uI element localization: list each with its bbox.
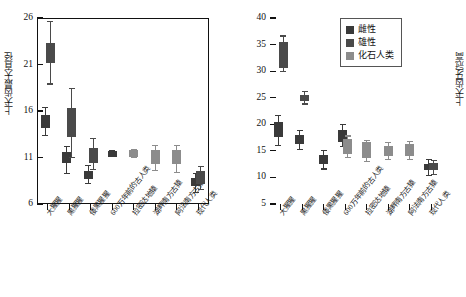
y-tick-mark xyxy=(270,17,276,18)
box-marker xyxy=(41,115,50,128)
whisker-cap-lower xyxy=(407,159,413,160)
box-marker xyxy=(151,150,160,164)
y-tick-mark xyxy=(37,17,43,18)
box-marker xyxy=(343,139,352,154)
y-tick-mark xyxy=(37,157,43,158)
y-tick-mark xyxy=(270,203,276,204)
legend-item[interactable]: 雄性 xyxy=(346,36,394,49)
x-tick-label: 大猩猩 xyxy=(278,195,297,216)
whisker-cap-lower xyxy=(90,169,96,170)
whisker-cap-lower xyxy=(64,173,70,174)
box-marker xyxy=(172,150,181,164)
whisker-cap-upper xyxy=(302,91,308,92)
whisker-cap-lower xyxy=(364,161,370,162)
whisker-cap-lower xyxy=(198,189,204,190)
whisker-cap-upper xyxy=(385,142,391,143)
y-tick-mark xyxy=(270,150,276,151)
box-marker xyxy=(67,108,76,137)
left-plot-area xyxy=(37,18,209,204)
whisker-cap-lower xyxy=(69,157,75,158)
whisker-cap-lower xyxy=(275,145,281,146)
whisker-cap-upper xyxy=(431,160,437,161)
box-marker xyxy=(300,95,309,102)
y-tick-label: 20 xyxy=(242,120,266,130)
whisker-cap-upper xyxy=(47,21,53,22)
whisker-cap-lower xyxy=(193,192,199,193)
whisker-cap-lower xyxy=(385,159,391,160)
legend-item[interactable]: 雌性 xyxy=(346,23,394,36)
whisker-cap-lower xyxy=(85,183,91,184)
y-tick-mark xyxy=(270,44,276,45)
y-tick-label: 11 xyxy=(9,153,33,163)
whisker-cap-upper xyxy=(90,138,96,139)
box-marker xyxy=(405,144,414,156)
box-marker xyxy=(46,43,55,63)
legend-swatch-icon xyxy=(346,26,354,34)
whisker-cap-lower xyxy=(321,168,327,169)
whisker-cap-upper xyxy=(364,140,370,141)
y-tick-label: 40 xyxy=(242,13,266,23)
legend-swatch-icon xyxy=(346,52,354,60)
whisker-cap-upper xyxy=(345,135,351,136)
whisker-cap-upper xyxy=(297,130,303,131)
box-marker xyxy=(108,151,117,157)
whisker-cap-upper xyxy=(340,124,346,125)
box-marker xyxy=(429,163,438,170)
box-marker xyxy=(84,171,93,179)
box-marker xyxy=(319,155,328,164)
legend-item[interactable]: 化石人类 xyxy=(346,49,394,62)
whisker-cap-upper xyxy=(64,146,70,147)
y-tick-mark xyxy=(37,64,43,65)
y-tick-label: 35 xyxy=(242,40,266,50)
whisker-cap-lower xyxy=(174,172,180,173)
y-tick-label: 16 xyxy=(9,106,33,116)
legend: 雌性雄性化石人类 xyxy=(340,18,402,67)
right-y-axis-label: 上犬齿牙冠高 xyxy=(455,52,464,106)
whisker-cap-upper xyxy=(85,165,91,166)
y-tick-mark xyxy=(270,97,276,98)
y-tick-label: 30 xyxy=(242,66,266,76)
y-tick-label: 6 xyxy=(9,199,33,209)
whisker-cap-lower xyxy=(152,170,158,171)
whisker-cap-upper xyxy=(321,150,327,151)
left-chart-panel: 上犬齿最大直径 611162126大猩猩黑猩猩倭黑猩猩600万年前的古人类拉密达… xyxy=(0,0,233,297)
legend-swatch-icon xyxy=(346,39,354,47)
whisker-cap-lower xyxy=(302,103,308,104)
y-tick-mark xyxy=(270,71,276,72)
x-tick-label: 黑猩猩 xyxy=(299,195,318,216)
legend-label: 化石人类 xyxy=(358,51,394,60)
box-marker xyxy=(384,146,393,157)
whisker-cap-upper xyxy=(198,166,204,167)
y-tick-mark xyxy=(270,177,276,178)
box-marker xyxy=(279,42,288,68)
box-marker xyxy=(362,142,371,158)
y-tick-label: 25 xyxy=(242,93,266,103)
whisker-cap-upper xyxy=(174,145,180,146)
legend-label: 雄性 xyxy=(358,38,376,47)
y-tick-label: 5 xyxy=(242,199,266,209)
box-marker xyxy=(196,171,205,184)
whisker-cap-lower xyxy=(47,83,53,84)
legend-label: 雌性 xyxy=(358,25,376,34)
box-marker xyxy=(129,150,138,157)
box-marker xyxy=(274,122,283,137)
whisker-cap-upper xyxy=(280,35,286,36)
whisker-cap-lower xyxy=(280,71,286,72)
whisker-cap-lower xyxy=(426,175,432,176)
box-marker xyxy=(89,148,98,163)
whisker-cap-upper xyxy=(152,145,158,146)
y-tick-label: 15 xyxy=(242,146,266,156)
y-tick-mark xyxy=(37,203,43,204)
y-tick-label: 10 xyxy=(242,173,266,183)
whisker-cap-lower xyxy=(431,174,437,175)
whisker-cap-upper xyxy=(407,141,413,142)
whisker-cap-lower xyxy=(42,135,48,136)
y-tick-label: 21 xyxy=(9,60,33,70)
whisker-cap-upper xyxy=(42,107,48,108)
whisker-cap-upper xyxy=(69,88,75,89)
whisker-cap-lower xyxy=(345,157,351,158)
y-tick-mark xyxy=(37,110,43,111)
y-tick-label: 26 xyxy=(9,13,33,23)
whisker-cap-lower xyxy=(297,149,303,150)
whisker-cap-upper xyxy=(275,115,281,116)
